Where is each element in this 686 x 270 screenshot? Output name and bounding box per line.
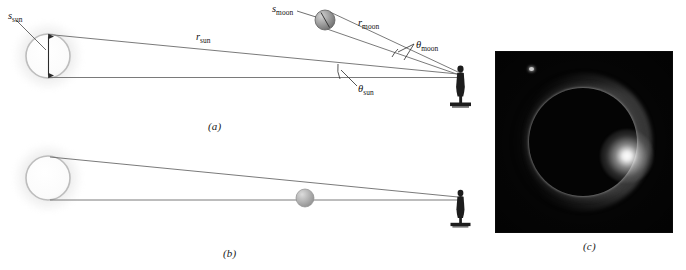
panel-caption-c: (c) (583, 240, 596, 252)
label-r-sun: rsun (196, 32, 211, 45)
panel-a-group (16, 10, 471, 108)
label-s-sun: ssun (8, 11, 23, 24)
panel-caption-a: (a) (208, 120, 221, 132)
theta-sun-leader (341, 70, 357, 86)
observer-figure-panel-a (450, 66, 471, 108)
eclipse-photograph (496, 52, 672, 232)
s-moon-leader (297, 11, 316, 17)
panel-caption-b: (b) (223, 247, 236, 259)
label-s-moon: smoon (272, 4, 293, 17)
eclipse-sightline-upper (50, 157, 458, 197)
label-theta-sun: θsun (358, 84, 374, 97)
theta-sun-arc (338, 64, 340, 79)
label-r-moon: rmoon (358, 18, 379, 31)
observer-figure-panel-b (451, 190, 471, 228)
figure-eclipse-geometry: ssun smoon rsun rmoon θsun θmoon (a) (b)… (0, 0, 686, 270)
label-theta-moon: θmoon (416, 40, 438, 53)
sightline-moon-upper (330, 12, 458, 72)
photo-vignette (496, 52, 672, 232)
sightline-sun-upper (49, 35, 458, 75)
panel-b-group (26, 156, 471, 228)
moon-disk-panel-b (296, 189, 314, 207)
sun-disk-panel-b (26, 156, 70, 200)
